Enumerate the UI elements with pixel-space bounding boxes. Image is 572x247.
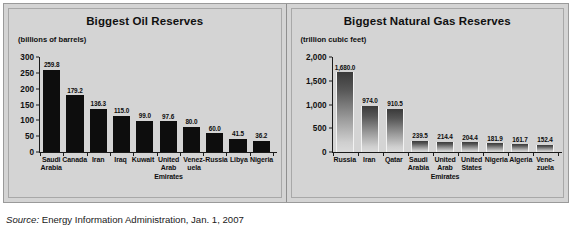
x-axis-category-label: UnitedArabEmirates — [154, 156, 183, 181]
bar[interactable] — [43, 70, 60, 152]
category-label-line: Iran — [357, 156, 382, 164]
bar-value-label: 214.4 — [437, 133, 453, 140]
bar-item[interactable]: 181.9 — [483, 57, 508, 152]
bar[interactable] — [361, 106, 380, 152]
bar[interactable] — [411, 141, 430, 152]
y-axis-tick-mark — [36, 120, 39, 121]
category-label-line: Arab — [154, 164, 183, 172]
bar[interactable] — [90, 109, 107, 152]
x-axis-category-label: Iraq — [109, 156, 131, 181]
bar[interactable] — [229, 139, 246, 152]
y-axis-tick-label: 150 — [9, 100, 34, 109]
bar-item[interactable]: 115.0 — [110, 57, 133, 152]
bar[interactable] — [136, 121, 153, 152]
bar[interactable] — [486, 143, 505, 152]
bar[interactable] — [511, 144, 530, 152]
bar-item[interactable]: 259.8 — [40, 57, 63, 152]
bar-value-label: 161.7 — [512, 136, 528, 143]
y-axis-tick-label: 200 — [9, 84, 34, 93]
category-label-line: Kuwait — [132, 156, 154, 164]
bar-value-label: 910.5 — [387, 100, 403, 107]
gas-plot-area: 2,0001,5001,00050001,680.0974.0910.5239.… — [292, 49, 564, 197]
category-label-line: Saudi — [40, 156, 62, 164]
bar[interactable] — [66, 95, 83, 152]
bar[interactable] — [183, 127, 200, 152]
bar-item[interactable]: 41.5 — [226, 57, 249, 152]
bar-series: 259.8179.2136.3115.099.097.680.060.041.5… — [40, 57, 273, 152]
category-label-line: Saudi — [406, 156, 431, 164]
bar-item[interactable]: 204.4 — [458, 57, 483, 152]
bar[interactable] — [386, 109, 405, 152]
bar[interactable] — [461, 142, 480, 152]
bar-value-label: 99.0 — [139, 112, 151, 119]
bar-item[interactable]: 36.2 — [250, 57, 273, 152]
bar[interactable] — [113, 116, 130, 152]
bar-item[interactable]: 99.0 — [133, 57, 156, 152]
category-label-line: Iraq — [109, 156, 131, 164]
bar-value-label: 136.3 — [90, 100, 106, 107]
bar-item[interactable]: 97.6 — [156, 57, 179, 152]
bar[interactable] — [160, 121, 177, 152]
x-axis-category-label: Qatar — [382, 156, 407, 181]
category-label-line: Nigeria — [250, 156, 273, 164]
category-label-line: United — [154, 156, 183, 164]
category-label-line: Venez- — [183, 156, 205, 164]
bar-value-label: 115.0 — [114, 107, 129, 114]
x-axis-category-label: Russia — [205, 156, 227, 181]
bar-item[interactable]: 161.7 — [508, 57, 533, 152]
y-axis-tick-mark — [36, 88, 39, 89]
x-axis-category-label: Vene-zuela — [533, 156, 558, 181]
bar[interactable] — [436, 142, 455, 152]
y-axis-tick-label: 0 — [292, 148, 327, 157]
category-label-line: United — [431, 156, 460, 164]
y-axis-tick-mark — [36, 136, 39, 137]
source-text: Energy Information Administration, Jan. … — [42, 214, 244, 225]
bar-item[interactable]: 974.0 — [358, 57, 383, 152]
bar[interactable] — [253, 141, 270, 152]
bar-value-label: 974.0 — [362, 97, 378, 104]
category-label-line: Russia — [205, 156, 227, 164]
bar[interactable] — [206, 133, 223, 152]
category-label-line: Algeria — [508, 156, 533, 164]
x-axis-category-label: SaudiArabia — [40, 156, 62, 181]
x-axis-category-label: Libya — [228, 156, 250, 181]
x-axis-line — [332, 152, 562, 153]
y-axis-tick-label: 100 — [9, 116, 34, 125]
bar-item[interactable]: 214.4 — [433, 57, 458, 152]
y-axis-tick-label: 1,000 — [292, 100, 327, 109]
x-axis-category-label: UnitedArabEmirates — [431, 156, 460, 181]
bar-value-label: 204.4 — [462, 134, 478, 141]
bar-item[interactable]: 179.2 — [63, 57, 86, 152]
bar-series: 1,680.0974.0910.5239.5214.4204.4181.9161… — [333, 57, 558, 152]
charts-frame: Biggest Oil Reserves (billions of barrel… — [3, 3, 569, 203]
bar-value-label: 179.2 — [67, 87, 83, 94]
y-axis-tick-mark — [329, 152, 332, 153]
category-label-line: Arabia — [406, 164, 431, 172]
bar-item[interactable]: 136.3 — [87, 57, 110, 152]
category-label-line: Canada — [62, 156, 87, 164]
bar-item[interactable]: 1,680.0 — [333, 57, 358, 152]
x-axis-category-label: Venez-uela — [183, 156, 205, 181]
category-label-line: Libya — [228, 156, 250, 164]
bar-value-label: 259.8 — [44, 61, 60, 68]
category-label-line: zuela — [533, 164, 558, 172]
bar-value-label: 41.5 — [232, 130, 244, 137]
bar[interactable] — [536, 145, 555, 152]
category-label-line: Iran — [87, 156, 109, 164]
category-label-line: United — [459, 156, 484, 164]
category-label-line: Vene- — [533, 156, 558, 164]
bar-item[interactable]: 152.4 — [533, 57, 558, 152]
bar-item[interactable]: 239.5 — [408, 57, 433, 152]
oil-axis-unit: (billions of barrels) — [18, 35, 86, 44]
x-axis-tick-mark — [273, 153, 274, 156]
x-axis-tick-mark — [558, 153, 559, 156]
bar-value-label: 239.5 — [412, 132, 428, 139]
y-axis-tick-label: 0 — [9, 148, 34, 157]
oil-reserves-panel: Biggest Oil Reserves (billions of barrel… — [4, 4, 287, 202]
bar-item[interactable]: 80.0 — [180, 57, 203, 152]
category-label-line: States — [459, 164, 484, 172]
bar-item[interactable]: 60.0 — [203, 57, 226, 152]
bar-item[interactable]: 910.5 — [383, 57, 408, 152]
bar[interactable] — [336, 72, 355, 152]
y-axis-tick-mark — [36, 152, 39, 153]
